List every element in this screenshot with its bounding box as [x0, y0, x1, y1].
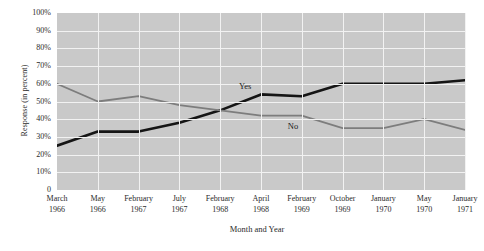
- y-axis-tick-label: 80%: [36, 44, 51, 52]
- series-label-no: No: [288, 121, 298, 131]
- y-axis-tick-label: 90%: [36, 27, 51, 35]
- x-tick-year: 1971: [434, 204, 484, 215]
- gridline-vertical: [261, 13, 262, 190]
- gridline-vertical: [98, 13, 99, 190]
- x-tick-month: January: [434, 193, 484, 204]
- gridline-vertical: [179, 13, 180, 190]
- x-axis-title-text: Month and Year: [200, 224, 285, 234]
- gridline-vertical: [302, 13, 303, 190]
- y-axis-tick-label: 70%: [36, 62, 51, 70]
- series-label-yes: Yes: [239, 81, 251, 91]
- y-axis-tick-label: 50%: [36, 98, 51, 106]
- x-axis-tick-label: January1971: [434, 193, 484, 215]
- y-axis-tick-label: 20%: [36, 151, 51, 159]
- gridline-vertical: [220, 13, 221, 190]
- y-axis-tick-label: 10%: [36, 168, 51, 176]
- y-axis-tick-label: 60%: [36, 80, 51, 88]
- y-axis-tick-label: 40%: [36, 115, 51, 123]
- y-axis-tick-label: 30%: [36, 133, 51, 141]
- plot-area: YesNo: [57, 13, 465, 190]
- y-axis-tick-label: 100%: [32, 9, 51, 17]
- chart-figure: Response (in percent) 100%90%80%70%60%50…: [0, 0, 484, 251]
- y-axis-tick-labels: 100%90%80%70%60%50%40%30%20%10%0: [14, 13, 54, 190]
- gridline-vertical: [343, 13, 344, 190]
- x-axis-tick-labels: March1966May1966February1967July1967Febr…: [57, 193, 465, 223]
- gridline-vertical: [424, 13, 425, 190]
- gridline-vertical: [139, 13, 140, 190]
- x-axis-title: Month and Year: [0, 224, 484, 234]
- gridline-vertical: [465, 13, 466, 190]
- gridline-vertical: [383, 13, 384, 190]
